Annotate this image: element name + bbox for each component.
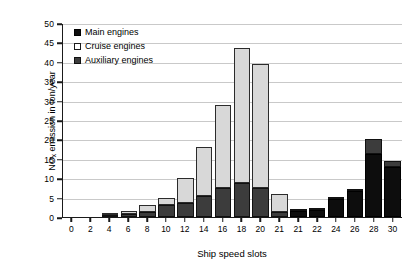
y-axis-tick-label: 20 bbox=[44, 135, 54, 145]
bar-segment-aux bbox=[121, 214, 138, 217]
x-axis-tick-label: 8 bbox=[145, 224, 150, 234]
bar-slot bbox=[345, 24, 364, 217]
x-axis-tick-label: 16 bbox=[218, 224, 227, 234]
x-axis-tick-mark bbox=[222, 218, 224, 222]
bar-segment-cruise bbox=[252, 64, 269, 188]
stacked-bar bbox=[347, 189, 364, 217]
x-axis-tick-mark bbox=[203, 218, 205, 222]
x-axis-tick-mark bbox=[90, 218, 92, 222]
bar-segment-aux bbox=[365, 139, 382, 153]
x-axis-tick-label: 21 bbox=[274, 224, 283, 234]
x-axis-tick-mark bbox=[146, 218, 148, 222]
bar-slot bbox=[289, 24, 308, 217]
chart-legend: Main enginesCruise enginesAuxiliary engi… bbox=[74, 27, 153, 65]
y-axis-tick-label: 40 bbox=[44, 58, 54, 68]
bar-segment-aux bbox=[215, 188, 232, 217]
x-axis-tick-label: 4 bbox=[107, 224, 112, 234]
x-axis-tick-mark bbox=[316, 218, 318, 222]
bar-slot bbox=[214, 24, 233, 217]
x-axis-tick-mark bbox=[71, 218, 73, 222]
y-axis-tick-label: 25 bbox=[44, 116, 54, 126]
bar-segment-main bbox=[347, 191, 364, 217]
stacked-bar bbox=[309, 208, 326, 217]
stacked-bar bbox=[139, 205, 156, 217]
x-axis-tick-mark bbox=[297, 218, 299, 222]
y-axis-tick-label: 50 bbox=[44, 19, 54, 29]
bar-slot bbox=[251, 24, 270, 217]
x-axis-tick-label: 14 bbox=[199, 224, 208, 234]
legend-item-label: Auxiliary engines bbox=[85, 55, 153, 65]
stacked-bar bbox=[252, 64, 269, 217]
x-axis-tick-mark bbox=[260, 218, 262, 222]
stacked-bar bbox=[271, 194, 288, 217]
legend-item: Auxiliary engines bbox=[74, 55, 153, 65]
legend-swatch-icon bbox=[74, 43, 81, 50]
x-axis-tick-mark bbox=[278, 218, 280, 222]
stacked-bar bbox=[102, 213, 119, 217]
bar-slot bbox=[270, 24, 289, 217]
bar-segment-aux bbox=[234, 183, 251, 217]
bar-segment-aux bbox=[139, 212, 156, 217]
x-axis-tick-label: 18 bbox=[237, 224, 246, 234]
bar-segment-aux bbox=[158, 205, 175, 217]
x-axis-tick-label: 2 bbox=[88, 224, 93, 234]
x-axis-tick-label: 12 bbox=[180, 224, 189, 234]
bar-segment-cruise bbox=[196, 147, 213, 196]
x-axis-title: Ship speed slots bbox=[62, 248, 402, 259]
bar-segment-main bbox=[290, 211, 307, 217]
stacked-bar bbox=[234, 48, 251, 217]
x-axis-tick-label: 10 bbox=[161, 224, 170, 234]
y-axis-tick-label: 45 bbox=[44, 38, 54, 48]
x-axis-tick-label: 6 bbox=[126, 224, 131, 234]
bar-slot bbox=[364, 24, 383, 217]
x-axis-tick-mark bbox=[165, 218, 167, 222]
bar-slot bbox=[383, 24, 402, 217]
bar-slot bbox=[327, 24, 346, 217]
x-axis-tick-mark bbox=[354, 218, 356, 222]
bar-segment-main bbox=[328, 199, 345, 217]
x-axis-tick-label: 0 bbox=[69, 224, 74, 234]
bar-slot bbox=[157, 24, 176, 217]
bar-segment-main bbox=[365, 154, 382, 217]
y-axis-tick-label: 35 bbox=[44, 77, 54, 87]
x-axis-ticks: 0246810121416182021212224262830 bbox=[62, 218, 402, 248]
x-axis-tick-label: 22 bbox=[312, 224, 321, 234]
bar-segment-cruise bbox=[215, 105, 232, 188]
y-axis-tick-label: 15 bbox=[44, 155, 54, 165]
stacked-bar bbox=[365, 139, 382, 217]
legend-item: Cruise engines bbox=[74, 41, 153, 51]
nox-emission-bar-chart: NOx emission in ton/year 051015202530354… bbox=[0, 0, 418, 272]
bar-segment-aux bbox=[102, 215, 119, 217]
x-axis-tick-label: 28 bbox=[369, 224, 378, 234]
x-axis-tick-mark bbox=[108, 218, 110, 222]
bar-segment-main bbox=[309, 210, 326, 217]
x-axis-tick-mark bbox=[392, 218, 394, 222]
stacked-bar bbox=[196, 147, 213, 217]
x-axis-tick-mark bbox=[127, 218, 129, 222]
bar-segment-aux bbox=[196, 196, 213, 217]
stacked-bar bbox=[384, 161, 401, 217]
x-axis-tick-mark bbox=[373, 218, 375, 222]
x-axis-tick-mark bbox=[241, 218, 243, 222]
legend-swatch-icon bbox=[74, 29, 81, 36]
y-axis-tick-label: 10 bbox=[44, 174, 54, 184]
bar-segment-cruise bbox=[234, 48, 251, 183]
legend-item-label: Cruise engines bbox=[85, 41, 145, 51]
stacked-bar bbox=[158, 198, 175, 217]
x-axis-tick-mark bbox=[335, 218, 337, 222]
x-axis-tick-label: 20 bbox=[256, 224, 265, 234]
stacked-bar bbox=[177, 178, 194, 217]
legend-swatch-icon bbox=[74, 57, 81, 64]
legend-item: Main engines bbox=[74, 27, 153, 37]
bar-segment-aux bbox=[271, 212, 288, 217]
x-axis-tick-label: 24 bbox=[331, 224, 340, 234]
x-axis-tick-mark bbox=[184, 218, 186, 222]
y-axis-tick-label: 30 bbox=[44, 97, 54, 107]
bar-segment-aux bbox=[177, 203, 194, 217]
y-axis-ticks: 05101520253035404550 bbox=[0, 0, 62, 272]
stacked-bar bbox=[290, 209, 307, 217]
bar-slot bbox=[232, 24, 251, 217]
bar-segment-main bbox=[384, 167, 401, 217]
y-axis-tick-label: 5 bbox=[49, 194, 54, 204]
x-axis-tick-label: 30 bbox=[388, 224, 397, 234]
